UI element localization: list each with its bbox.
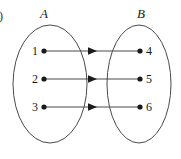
element-dot xyxy=(137,48,142,53)
set-b-label: B xyxy=(137,6,145,21)
set-a-element-2: 2 xyxy=(32,72,47,86)
set-a-label: A xyxy=(39,6,48,21)
element-dot xyxy=(41,48,46,53)
element-label: 3 xyxy=(32,100,38,114)
set-b-element-6: 6 xyxy=(137,100,152,114)
arrow-head-icon xyxy=(88,47,97,55)
arrow-head-icon xyxy=(88,75,97,83)
arrow-head-icon xyxy=(88,103,97,111)
set-a-oval xyxy=(13,25,87,143)
element-dot xyxy=(137,76,142,81)
element-dot xyxy=(137,104,142,109)
element-label: 5 xyxy=(146,72,152,86)
set-b-element-5: 5 xyxy=(137,72,152,86)
arrow-2-to-5 xyxy=(45,75,139,83)
mapping-diagram: ) A B 1 2 xyxy=(0,0,181,159)
set-a-element-3: 3 xyxy=(32,100,47,114)
element-label: 6 xyxy=(146,100,152,114)
element-label: 2 xyxy=(32,72,38,86)
set-b-element-4: 4 xyxy=(137,44,152,58)
arrow-3-to-6 xyxy=(45,103,139,111)
mapping-diagram-canvas: ) A B 1 2 xyxy=(0,0,181,159)
figure-part-tag: ) xyxy=(0,9,3,23)
element-label: 1 xyxy=(32,44,38,58)
arrow-1-to-4 xyxy=(45,47,139,55)
element-label: 4 xyxy=(146,44,152,58)
element-dot xyxy=(41,76,46,81)
element-dot xyxy=(41,104,46,109)
set-a-element-1: 1 xyxy=(32,44,47,58)
set-b-oval xyxy=(107,25,171,143)
